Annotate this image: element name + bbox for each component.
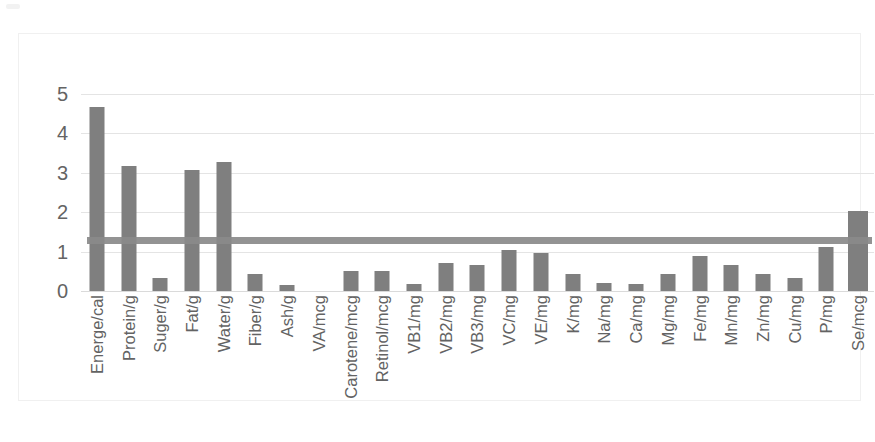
- x-label-slot: P/mg: [811, 295, 843, 425]
- x-label-slot: Fat/g: [176, 295, 208, 425]
- x-axis-category-label: VC/mg: [501, 295, 518, 345]
- x-axis-category-label: Na/mg: [596, 295, 613, 344]
- bar-slot: [684, 94, 716, 291]
- x-axis-category-label: Fiber/g: [247, 295, 264, 346]
- bar-slot: [271, 94, 303, 291]
- x-label-slot: Protein/g: [113, 295, 145, 425]
- bar-slot: [747, 94, 779, 291]
- bar-slot: [525, 94, 557, 291]
- x-axis-category-label: VA/mcg: [311, 295, 328, 352]
- x-axis-category-label: Ash/g: [279, 295, 296, 337]
- bar[interactable]: [407, 284, 422, 291]
- x-axis-category-label: Cu/mg: [786, 295, 803, 344]
- x-axis-category-label: VB1/mg: [406, 295, 423, 354]
- x-axis-category-label: P/mg: [818, 295, 835, 334]
- bar-slot: [779, 94, 811, 291]
- bar-slot: [652, 94, 684, 291]
- x-axis-category-label: K/mg: [564, 295, 581, 334]
- bar[interactable]: [216, 162, 231, 291]
- bar-slot: [144, 94, 176, 291]
- y-axis-tick-label: 2: [57, 202, 68, 222]
- x-axis-category-label: Se/mcg: [850, 295, 867, 351]
- reference-line[interactable]: [87, 237, 872, 244]
- x-label-slot: Carotene/mcg: [335, 295, 367, 425]
- bar-slot: [208, 94, 240, 291]
- x-label-slot: VA/mcg: [303, 295, 335, 425]
- bar[interactable]: [89, 107, 104, 291]
- x-axis-category-labels: Energe/calProtein/gSuger/gFat/gWater/gFi…: [81, 295, 874, 425]
- bar-slot: [620, 94, 652, 291]
- bar-slot: [303, 94, 335, 291]
- plot-area: 012345: [81, 94, 874, 291]
- bar[interactable]: [597, 283, 612, 291]
- x-label-slot: Zn/mg: [747, 295, 779, 425]
- x-label-slot: K/mg: [557, 295, 589, 425]
- chart-screenshot: 012345 Energe/calProtein/gSuger/gFat/gWa…: [0, 0, 875, 442]
- bar-slot: [842, 94, 874, 291]
- gridline: [81, 291, 874, 292]
- x-axis-category-label: Energe/cal: [89, 295, 106, 374]
- y-axis-tick-label: 4: [57, 123, 68, 143]
- x-axis-category-label: Protein/g: [120, 295, 137, 361]
- bar-slot: [398, 94, 430, 291]
- bar[interactable]: [755, 274, 770, 291]
- page-artifact: [6, 4, 20, 9]
- x-axis-category-label: VB3/mg: [469, 295, 486, 354]
- bar-slot: [366, 94, 398, 291]
- x-label-slot: Ca/mg: [620, 295, 652, 425]
- x-label-slot: Mg/mg: [652, 295, 684, 425]
- x-axis-category-label: VE/mg: [533, 295, 550, 345]
- y-axis-tick-label: 3: [57, 163, 68, 183]
- bar[interactable]: [438, 263, 453, 291]
- bar[interactable]: [121, 166, 136, 291]
- bar[interactable]: [819, 247, 834, 291]
- bar[interactable]: [502, 250, 517, 291]
- x-axis-category-label: Mn/mg: [723, 295, 740, 345]
- bar[interactable]: [343, 271, 358, 291]
- bar-slot: [715, 94, 747, 291]
- bar-slot: [240, 94, 272, 291]
- bar-slot: [557, 94, 589, 291]
- x-label-slot: Suger/g: [144, 295, 176, 425]
- bar[interactable]: [848, 211, 868, 291]
- x-axis-category-label: Carotene/mcg: [342, 295, 359, 399]
- x-label-slot: VB1/mg: [398, 295, 430, 425]
- bar-slot: [493, 94, 525, 291]
- bar-slot: [462, 94, 494, 291]
- x-axis-category-label: Suger/g: [152, 295, 169, 353]
- bar[interactable]: [565, 274, 580, 291]
- x-label-slot: Ash/g: [271, 295, 303, 425]
- bar[interactable]: [375, 271, 390, 291]
- x-axis-category-label: Mg/mg: [660, 295, 677, 345]
- bar[interactable]: [533, 253, 548, 291]
- x-axis-category-label: Fat/g: [184, 295, 201, 333]
- bar[interactable]: [470, 265, 485, 291]
- y-axis-tick-label: 5: [57, 84, 68, 104]
- bar-series: [81, 94, 874, 291]
- bar[interactable]: [787, 278, 802, 291]
- x-label-slot: Retinol/mcg: [366, 295, 398, 425]
- bar[interactable]: [660, 274, 675, 291]
- x-label-slot: Water/g: [208, 295, 240, 425]
- bar[interactable]: [248, 274, 263, 291]
- x-label-slot: VB3/mg: [462, 295, 494, 425]
- bar[interactable]: [185, 170, 200, 291]
- x-axis-category-label: Retinol/mcg: [374, 295, 391, 382]
- x-label-slot: Cu/mg: [779, 295, 811, 425]
- x-label-slot: VB2/mg: [430, 295, 462, 425]
- bar[interactable]: [692, 256, 707, 291]
- x-label-slot: Energe/cal: [81, 295, 113, 425]
- x-axis-category-label: VB2/mg: [438, 295, 455, 354]
- bar[interactable]: [153, 278, 168, 291]
- x-axis-category-label: Ca/mg: [628, 295, 645, 344]
- bar[interactable]: [280, 285, 295, 291]
- x-label-slot: Fiber/g: [240, 295, 272, 425]
- bar-slot: [176, 94, 208, 291]
- bar-slot: [81, 94, 113, 291]
- bar-slot: [335, 94, 367, 291]
- x-label-slot: Fe/mg: [684, 295, 716, 425]
- bar-slot: [589, 94, 621, 291]
- bar-slot: [113, 94, 145, 291]
- bar[interactable]: [629, 284, 644, 291]
- bar[interactable]: [724, 265, 739, 291]
